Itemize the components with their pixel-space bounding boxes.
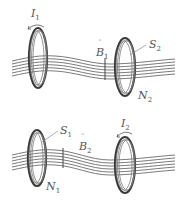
top-panel: I1 B1 ¯ S2 N2	[12, 7, 175, 104]
label-n2: N2	[137, 89, 152, 104]
top-coil-1	[29, 28, 47, 88]
s1-leader	[42, 131, 58, 142]
top-field-lines	[12, 56, 175, 79]
label-i1: I1	[30, 7, 40, 22]
label-b1: B1	[95, 46, 109, 61]
label-n1: N1	[45, 180, 60, 195]
bottom-coil-1	[28, 130, 46, 186]
label-s1: S1	[60, 124, 72, 139]
bottom-field-lines	[12, 150, 175, 175]
bottom-panel: S1 B2 ¯ I2 N1	[12, 117, 175, 195]
label-i2: I2	[120, 117, 130, 132]
bottom-field-line	[12, 150, 175, 160]
label-b2: B2	[78, 140, 92, 155]
vector-bar-b2: ¯	[81, 133, 85, 141]
label-s2: S2	[149, 38, 161, 53]
mutual-inductance-diagram: I1 B1 ¯ S2 N2 S1 B2 ¯	[0, 0, 183, 202]
vector-bar-b1: ¯	[98, 39, 102, 47]
